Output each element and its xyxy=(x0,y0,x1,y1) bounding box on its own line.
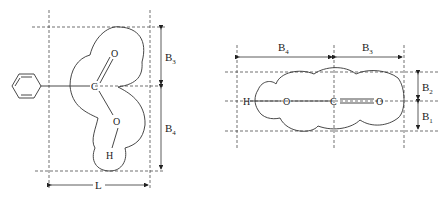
right-lower-dimension-label: B1 xyxy=(422,110,433,125)
left-bottom-dimension-label: B4 xyxy=(165,122,176,137)
left-single-oxygen-atom: O xyxy=(113,116,120,127)
carboxylic-acid-sterimol-diagram: C O O H B3 B4 L H O C O B4 B3 B2 B1 xyxy=(0,0,444,199)
left-carbon-atom: C xyxy=(91,81,98,92)
right-carbon-atom: C xyxy=(330,96,337,107)
right-double-oxygen-atom: O xyxy=(376,96,383,107)
left-hydrogen-atom: H xyxy=(106,150,113,161)
left-top-dimension-label: B3 xyxy=(165,51,176,66)
right-upper-dimension-label: B2 xyxy=(422,81,433,96)
right-single-oxygen-atom: O xyxy=(283,96,290,107)
right-right-dimension-label: B3 xyxy=(362,41,373,56)
phenyl-ring-icon xyxy=(12,74,41,98)
left-double-oxygen-atom: O xyxy=(111,48,118,59)
right-hydrogen-atom: H xyxy=(243,96,250,107)
left-diagram xyxy=(12,10,165,190)
right-left-dimension-label: B4 xyxy=(278,41,289,56)
left-width-dimension-label: L xyxy=(95,179,102,191)
